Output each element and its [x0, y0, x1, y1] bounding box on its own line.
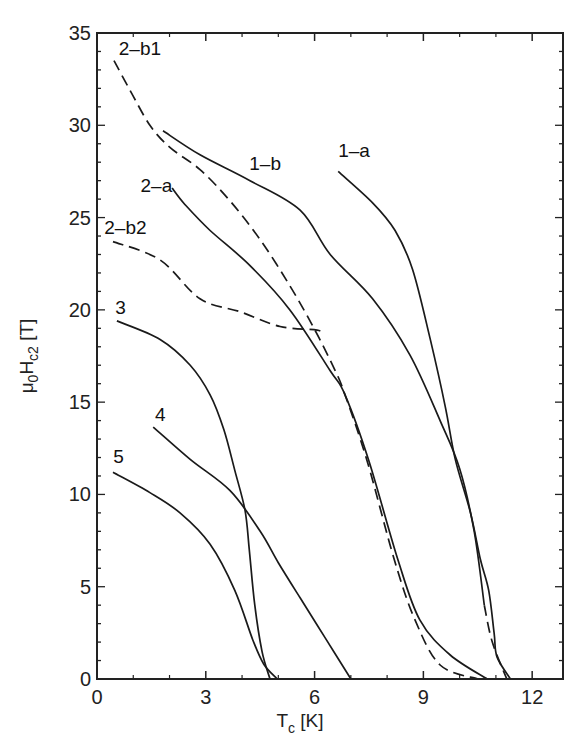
x-tick-label: 9: [418, 686, 429, 708]
y-tick-label: 20: [69, 299, 91, 321]
curve-2-b1: [114, 61, 478, 679]
x-tick-label: 3: [200, 686, 211, 708]
curve-label-2-b2: 2–b2: [104, 217, 146, 238]
y-tick-label: 10: [69, 483, 91, 505]
curve-label-2-b1: 2–b1: [119, 38, 161, 59]
axis-ticks: [97, 33, 563, 679]
curve-label-1-b: 1–b: [249, 153, 281, 174]
curve-label-2-a: 2–a: [141, 175, 173, 196]
plot-frame: [97, 33, 563, 679]
axis-tick-labels: 03691205101520253035: [69, 22, 544, 708]
y-tick-label: 5: [80, 576, 91, 598]
curve-2-a: [172, 188, 487, 679]
x-tick-label: 6: [309, 686, 320, 708]
curve-5: [113, 472, 277, 679]
curves: [113, 61, 510, 679]
curve-label-3: 3: [115, 297, 126, 318]
x-axis-title: Tc [K]: [276, 710, 323, 736]
curve-label-4: 4: [155, 404, 166, 425]
y-axis-title: μ0Hc2 [T]: [16, 319, 41, 394]
y-tick-label: 25: [69, 207, 91, 229]
x-tick-label: 0: [91, 686, 102, 708]
y-tick-label: 30: [69, 114, 91, 136]
y-tick-label: 35: [69, 22, 91, 44]
curve-label-1-a: 1–a: [338, 140, 370, 161]
y-tick-label: 15: [69, 391, 91, 413]
hc2-vs-tc-chart: 03691205101520253035 1–a1–b2–a2–b12–b234…: [0, 0, 585, 752]
curve-label-5: 5: [113, 446, 124, 467]
curve-labels: 1–a1–b2–a2–b12–b2345: [104, 38, 370, 467]
curve-4: [153, 427, 351, 679]
y-tick-label: 0: [80, 668, 91, 690]
x-tick-label: 12: [521, 686, 543, 708]
